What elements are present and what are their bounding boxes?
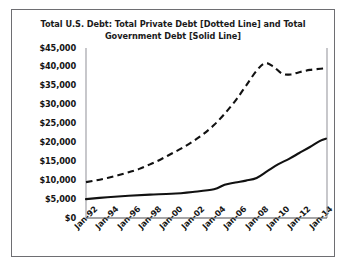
chart-figure: Total U.S. Debt: Total Private Debt [Dot… [0, 0, 362, 271]
x-axis-tick-labels: Jan-92Jan-94Jan-96Jan-98Jan-00Jan-02Jan-… [0, 0, 362, 271]
